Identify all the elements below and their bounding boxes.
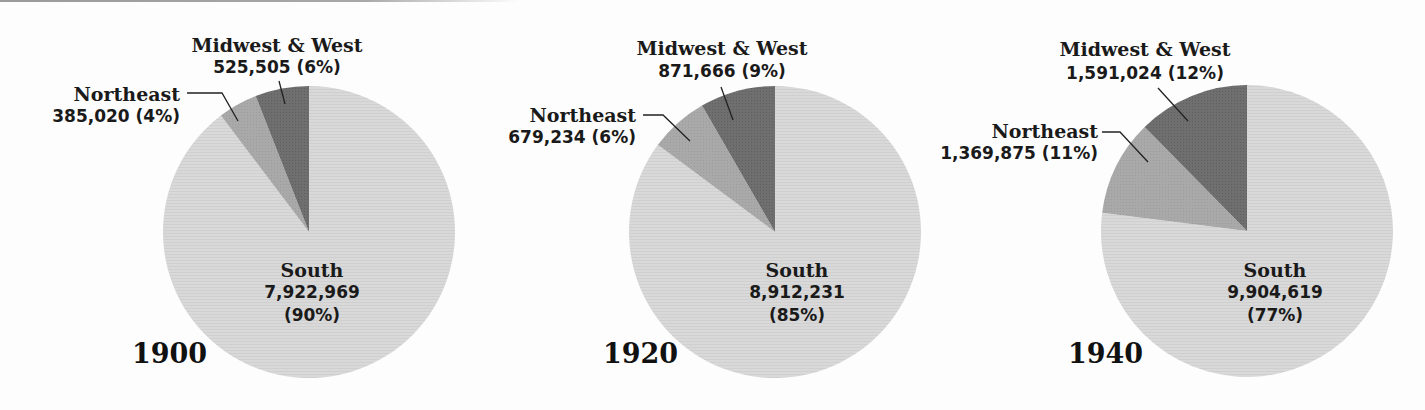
- pie-panel-1940: Midwest & West 1,591,024 (12%) Northeast…: [940, 38, 1393, 377]
- label-south-name: South: [766, 259, 829, 281]
- label-northeast-name: Northeast: [991, 120, 1098, 142]
- pie-chart: [1101, 85, 1393, 377]
- label-midwest-west-name: Midwest & West: [636, 37, 807, 59]
- year-label: 1940: [1068, 338, 1143, 369]
- pie-panel-1900: Midwest & West 525,505 (6%) Northeast 38…: [52, 34, 455, 378]
- pie-panel-1920: Midwest & West 871,666 (9%) Northeast 67…: [508, 37, 921, 378]
- label-midwest-west-value: 1,591,024 (12%): [1066, 63, 1224, 83]
- label-northeast-value: 679,234 (6%): [508, 127, 636, 147]
- label-northeast-value: 385,020 (4%): [52, 106, 180, 126]
- label-south-percent: (90%): [284, 305, 340, 325]
- label-south-value: 7,922,969: [264, 282, 360, 302]
- label-south-value: 9,904,619: [1227, 282, 1323, 302]
- label-south-name: South: [281, 259, 344, 281]
- year-label: 1900: [132, 338, 207, 369]
- year-label: 1920: [603, 338, 678, 369]
- label-northeast-name: Northeast: [73, 83, 180, 105]
- label-midwest-west-value: 525,505 (6%): [213, 57, 341, 77]
- pie-chart: [629, 86, 921, 378]
- label-northeast-name: Northeast: [529, 104, 636, 126]
- pie-charts-figure: Midwest & West 525,505 (6%) Northeast 38…: [0, 0, 1425, 410]
- label-midwest-west-name: Midwest & West: [1059, 38, 1230, 60]
- label-midwest-west-name: Midwest & West: [191, 34, 362, 56]
- label-midwest-west-value: 871,666 (9%): [658, 61, 786, 81]
- pie-chart: [163, 86, 455, 378]
- label-south-value: 8,912,231: [749, 282, 845, 302]
- label-northeast-value: 1,369,875 (11%): [940, 143, 1098, 163]
- label-south-percent: (85%): [769, 305, 825, 325]
- label-south-name: South: [1244, 259, 1307, 281]
- label-south-percent: (77%): [1247, 305, 1303, 325]
